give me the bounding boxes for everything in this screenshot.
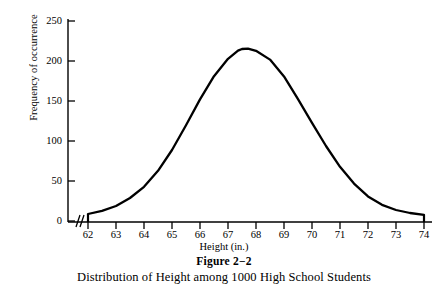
plot-area: Frequency of occurrence 250 200 150 100 … — [0, 0, 448, 238]
y-tick-label-150: 150 — [28, 96, 62, 106]
x-axis-ticks — [88, 222, 424, 229]
y-tick-label-50: 50 — [28, 176, 62, 186]
x-tick-label-68: 68 — [244, 230, 268, 240]
figure-number: Figure 2−2 — [0, 255, 448, 267]
x-tick-label-62: 62 — [76, 230, 100, 240]
x-tick-label-72: 72 — [356, 230, 380, 240]
x-axis-title: Height (in.) — [0, 241, 448, 252]
axis-break-icon — [76, 215, 84, 227]
x-tick-label-66: 66 — [188, 230, 212, 240]
x-tick-label-70: 70 — [300, 230, 324, 240]
x-tick-label-73: 73 — [384, 230, 408, 240]
x-tick-label-63: 63 — [104, 230, 128, 240]
figure-container: Frequency of occurrence 250 200 150 100 … — [0, 0, 448, 290]
distribution-curve — [88, 49, 424, 215]
x-tick-label-71: 71 — [328, 230, 352, 240]
x-tick-label-65: 65 — [160, 230, 184, 240]
x-tick-label-74: 74 — [412, 230, 436, 240]
x-tick-label-69: 69 — [272, 230, 296, 240]
figure-caption: Distribution of Height among 1000 High S… — [0, 270, 448, 285]
y-tick-label-250: 250 — [28, 16, 62, 26]
y-tick-label-100: 100 — [28, 136, 62, 146]
y-axis-ticks — [68, 21, 75, 221]
distribution-chart — [0, 0, 448, 238]
x-tick-label-67: 67 — [216, 230, 240, 240]
y-tick-label-200: 200 — [28, 56, 62, 66]
x-tick-label-64: 64 — [132, 230, 156, 240]
y-tick-label-0: 0 — [28, 216, 62, 226]
